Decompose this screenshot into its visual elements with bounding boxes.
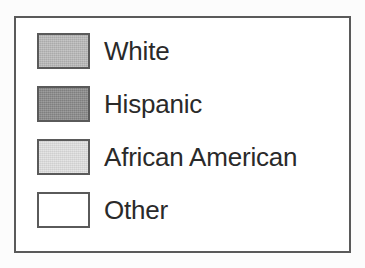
legend-label-hispanic: Hispanic — [104, 91, 202, 117]
legend-label-african-american: African American — [104, 144, 297, 170]
legend-label-other: Other — [104, 197, 168, 223]
legend-box: White Hispanic African American Other — [14, 16, 351, 253]
legend-swatch-white — [37, 33, 90, 69]
legend-entry-other: Other — [37, 192, 168, 228]
legend-entry-hispanic: Hispanic — [37, 86, 202, 122]
legend-label-white: White — [104, 38, 169, 64]
legend-swatch-hispanic — [37, 86, 90, 122]
legend-entry-list: White Hispanic African American Other — [16, 18, 349, 251]
legend-entry-african-american: African American — [37, 139, 297, 175]
legend-swatch-african-american — [37, 139, 90, 175]
legend-entry-white: White — [37, 33, 169, 69]
legend-figure: White Hispanic African American Other — [0, 0, 365, 268]
legend-swatch-other — [37, 192, 90, 228]
